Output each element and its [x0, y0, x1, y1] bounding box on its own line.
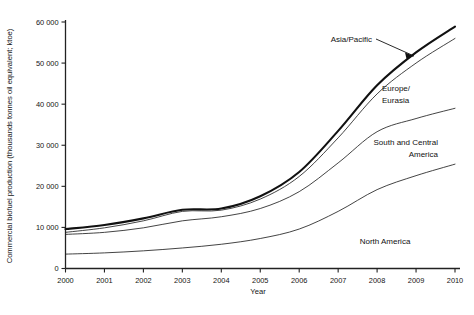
- x-tick-label-2001: 2001: [96, 276, 112, 285]
- series-label-north-america: North America: [360, 237, 411, 246]
- series-label-south-central-america-line2: America: [409, 150, 439, 159]
- y-tick-label-40000: 40 000: [36, 100, 59, 109]
- x-tick-label-2000: 2000: [57, 276, 73, 285]
- x-tick-label-2008: 2008: [369, 276, 385, 285]
- y-tick-label-20000: 20 000: [36, 182, 59, 191]
- series-label-europe-eurasia-line1: Europe/: [382, 84, 411, 93]
- y-tick-label-50000: 50 000: [36, 59, 59, 68]
- x-tick-label-2003: 2003: [174, 276, 190, 285]
- y-tick-label-0: 0: [54, 264, 58, 273]
- series-label-europe-eurasia-line2: Eurasia: [382, 96, 410, 105]
- x-tick-label-2006: 2006: [291, 276, 307, 285]
- y-axis-title: Commercial biofuel production (thousands…: [5, 28, 14, 263]
- chart-figure: 010 00020 00030 00040 00050 00060 000 20…: [0, 0, 474, 315]
- y-tick-label-30000: 30 000: [36, 141, 59, 150]
- series-curve-south-and-central-america: [66, 108, 456, 234]
- x-tick-label-2004: 2004: [213, 276, 229, 285]
- line-chart: 010 00020 00030 00040 00050 00060 000 20…: [0, 0, 474, 315]
- series-label-asia-pacific: Asia/Pacific: [331, 35, 372, 44]
- x-tick-label-2010: 2010: [447, 276, 463, 285]
- x-tick-label-2007: 2007: [330, 276, 346, 285]
- asia-pacific-leader-line: [376, 39, 414, 56]
- x-axis-title: Year: [250, 287, 266, 296]
- series-label-south-central-america-line1: South and Central: [374, 138, 439, 147]
- x-axis-tick-labels: 2000200120022003200420052006200720082009…: [57, 276, 463, 285]
- x-tick-label-2009: 2009: [408, 276, 424, 285]
- x-tick-label-2005: 2005: [252, 276, 268, 285]
- y-axis-tick-labels: 010 00020 00030 00040 00050 00060 000: [36, 18, 59, 273]
- y-tick-label-10000: 10 000: [36, 223, 59, 232]
- x-tick-label-2002: 2002: [135, 276, 151, 285]
- y-tick-label-60000: 60 000: [36, 18, 59, 27]
